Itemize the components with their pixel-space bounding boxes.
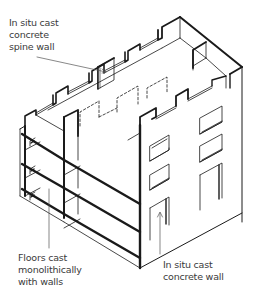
label-concrete-wall-line-2: concrete wall <box>163 271 224 283</box>
label-floors-line-2: monolithically <box>18 264 82 276</box>
label-concrete-wall: In situ cast concrete wall <box>163 259 224 283</box>
label-spine-wall-line-3: spine wall <box>9 41 59 53</box>
spine-wall-leader <box>37 57 106 72</box>
front-facade <box>140 67 242 268</box>
cut-section <box>20 110 140 268</box>
label-spine-wall-line-1: In situ cast <box>9 17 59 29</box>
label-spine-wall: In situ cast concrete spine wall <box>9 17 59 53</box>
label-concrete-wall-line-1: In situ cast <box>163 259 224 271</box>
label-floors-line-1: Floors cast <box>18 252 82 264</box>
spine-wall-window <box>98 58 114 89</box>
facade-windows-col0 <box>128 133 140 140</box>
label-floors: Floors cast monolithically with walls <box>18 252 82 288</box>
label-floors-line-3: with walls <box>18 276 82 288</box>
facade-windows-col2 <box>200 106 222 210</box>
label-spine-wall-line-2: concrete <box>9 29 59 41</box>
facade-windows-col1 <box>150 135 169 240</box>
